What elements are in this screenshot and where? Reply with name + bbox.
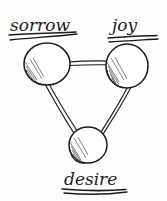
- node-joy[interactable]: [106, 44, 148, 88]
- diagram-svg: sorrow joy desire: [0, 0, 167, 201]
- sketch-canvas: sorrow joy desire: [0, 0, 167, 201]
- label-sorrow: sorrow: [9, 15, 77, 40]
- label-joy: joy: [108, 15, 158, 42]
- label-joy-text: joy: [108, 15, 138, 35]
- label-desire-text: desire: [64, 169, 117, 189]
- label-desire-underline: [62, 189, 127, 194]
- label-joy-underline: [108, 36, 158, 43]
- node-desire[interactable]: [69, 127, 107, 164]
- node-sorrow[interactable]: [24, 43, 70, 87]
- label-desire: desire: [62, 169, 127, 194]
